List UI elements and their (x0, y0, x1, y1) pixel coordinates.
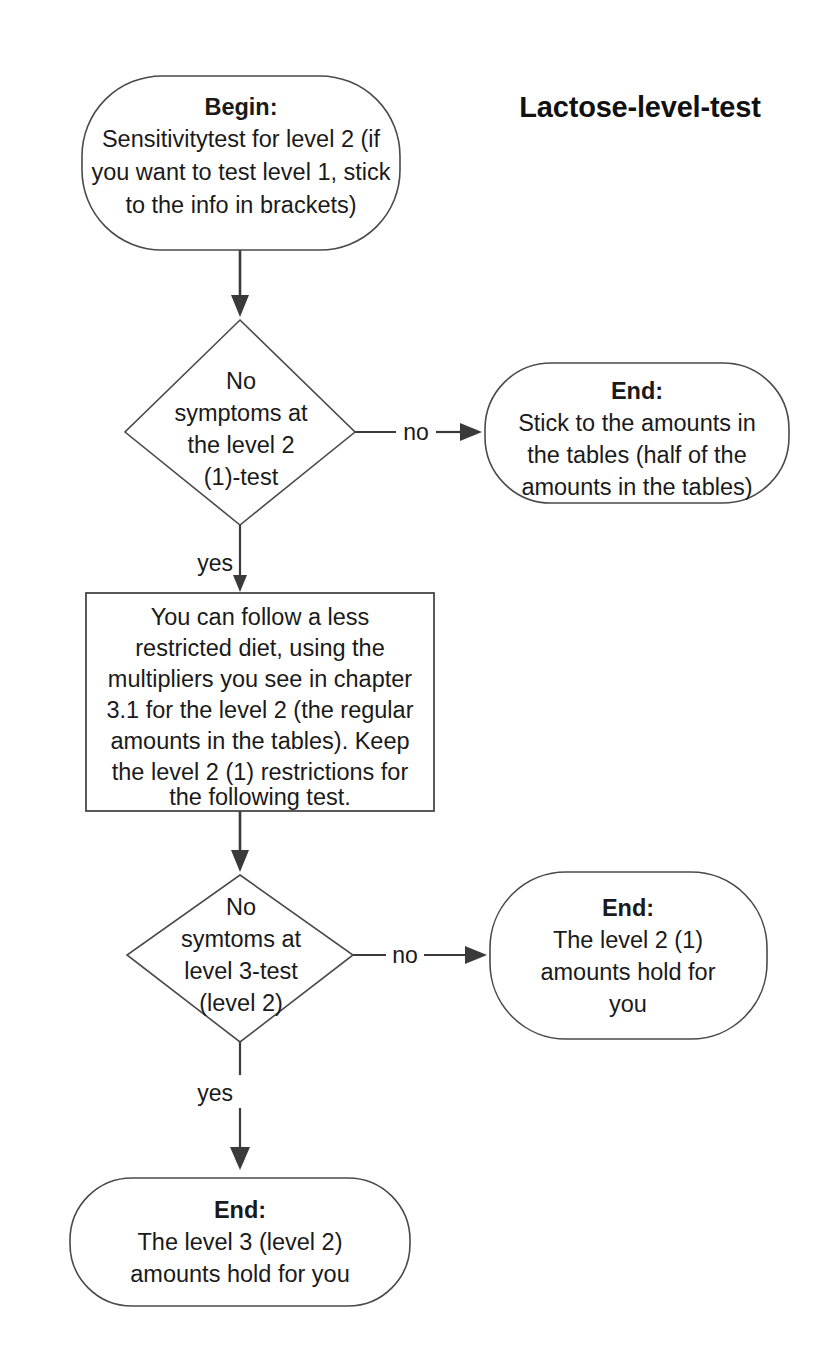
edge-process1-to-decision2 (231, 810, 249, 872)
node-begin[interactable]: Begin: Sensitivitytest for level 2 (if y… (82, 76, 400, 250)
edge-decision2-no: no (353, 942, 487, 968)
edge-label-no-1: no (403, 419, 429, 445)
page-title: Lactose-level-test (519, 91, 761, 123)
node-begin-line-2: you want to test level 1, stick (91, 159, 390, 185)
node-end2-line-2: amounts hold for (540, 959, 715, 985)
node-end-level2-amounts[interactable]: End: The level 2 (1) amounts hold for yo… (490, 872, 767, 1039)
node-process1-line-6: the level 2 (1) restrictions for (112, 759, 409, 785)
node-decision1-line-1: No (226, 368, 256, 394)
node-end1-lead: End: (611, 378, 663, 404)
node-begin-lead: Begin: (204, 94, 277, 120)
node-decision1-line-3: the level 2 (187, 432, 294, 458)
node-process1-line-7: the following test. (169, 784, 351, 810)
node-process1-line-2: restricted diet, using the (135, 635, 385, 661)
node-end1-line-1: Stick to the amounts in (518, 410, 756, 436)
node-end2-line-3: you (609, 991, 647, 1017)
node-decision-level2-test[interactable]: No symptoms at the level 2 (1)-test (125, 320, 355, 525)
node-process1-line-4: 3.1 for the level 2 (the regular (107, 697, 414, 723)
node-end1-line-2: the tables (half of the (527, 442, 746, 468)
edge-label-yes-1: yes (197, 550, 233, 576)
node-decision1-line-4: (1)-test (204, 464, 279, 490)
node-decision2-line-3: level 3-test (184, 958, 298, 984)
node-decision1-line-2: symptoms at (174, 400, 308, 426)
node-end2-line-1: The level 2 (1) (553, 927, 703, 953)
node-end-level3-amounts[interactable]: End: The level 3 (level 2) amounts hold … (70, 1178, 410, 1306)
edge-label-no-2: no (392, 942, 418, 968)
node-process1-line-1: You can follow a less (151, 604, 370, 630)
node-decision2-line-1: No (226, 894, 256, 920)
node-begin-line-1: Sensitivitytest for level 2 (if (102, 126, 381, 152)
node-end1-line-3: amounts in the tables) (521, 474, 752, 500)
flowchart-canvas: Lactose-level-test no yes no yes (0, 0, 839, 1365)
edge-decision1-yes: yes (197, 523, 247, 592)
node-end-stick-to-amounts[interactable]: End: Stick to the amounts in the tables … (485, 363, 789, 503)
node-end2-lead: End: (602, 895, 654, 921)
node-process1-line-3: multipliers you see in chapter (108, 666, 413, 692)
edge-begin-to-decision1 (231, 250, 249, 317)
node-end3-lead: End: (214, 1197, 266, 1223)
node-end3-line-1: The level 3 (level 2) (137, 1229, 342, 1255)
edge-decision1-no: no (355, 419, 482, 445)
node-decision-level3-test[interactable]: No symtoms at level 3-test (level 2) (127, 875, 353, 1042)
edge-label-yes-2: yes (197, 1080, 233, 1106)
node-begin-line-3: to the info in brackets) (125, 192, 356, 218)
node-decision2-line-2: symtoms at (181, 926, 302, 952)
node-decision2-line-4: (level 2) (199, 990, 283, 1016)
node-end3-line-2: amounts hold for you (130, 1261, 349, 1287)
edge-decision2-yes: yes (197, 1040, 250, 1170)
node-process-less-restricted-diet[interactable]: You can follow a less restricted diet, u… (86, 593, 434, 811)
node-process1-line-5: amounts in the tables). Keep (110, 728, 409, 754)
